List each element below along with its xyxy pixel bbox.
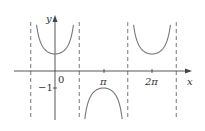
origin-label: 0 [58, 74, 64, 85]
x-axis-label: x [187, 76, 193, 87]
y-axis-label: y [45, 13, 52, 24]
axes [14, 20, 190, 120]
x-axis-arrow-icon [185, 69, 192, 74]
sec-curves [37, 25, 171, 119]
secant-graph: y x 0 π 2π −1 [0, 0, 205, 131]
y-axis-arrow-icon [53, 15, 58, 22]
minus-one-label: −1 [38, 82, 53, 93]
sec-branch [85, 88, 122, 119]
two-pi-label: 2π [144, 76, 158, 87]
sec-branch [134, 25, 171, 54]
pi-label: π [99, 76, 107, 87]
